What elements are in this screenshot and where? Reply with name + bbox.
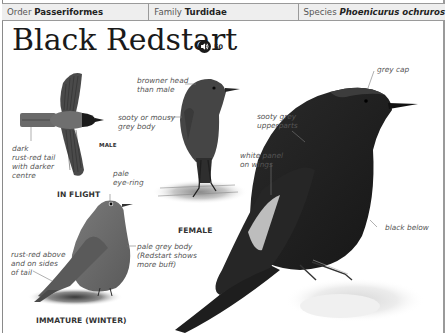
annotation-sooty-body: sooty or mousy grey body (118, 113, 175, 131)
annotation-rust-red-tail: rust-red above and on sides of tail (11, 250, 65, 277)
bird-illustrations (0, 0, 447, 333)
annotation-grey-cap: grey cap (377, 65, 409, 74)
annotation-eye-ring: pale eye-ring (113, 169, 144, 187)
annotation-black-below: black below (385, 223, 429, 232)
field-guide-page: Order Passeriformes Family Turdidae Spec… (0, 0, 447, 333)
caption-immature-winter: IMMATURE (WINTER) (36, 316, 127, 325)
sex-label-male: MALE (99, 142, 117, 148)
female-bird (152, 79, 248, 204)
annotation-tail: dark rust-red tail with darker centre (12, 144, 55, 180)
caption-female: FEMALE (178, 226, 212, 235)
annotation-white-panel: white panel on wings (240, 151, 283, 169)
caption-in-flight: IN FLIGHT (57, 190, 100, 199)
annotation-pale-grey-body: pale grey body (Redstart shows more buff… (137, 242, 197, 269)
annotation-sooty-upperparts: sooty grey upperparts (257, 112, 298, 130)
annotation-browner-head: browner head than male (137, 76, 188, 94)
